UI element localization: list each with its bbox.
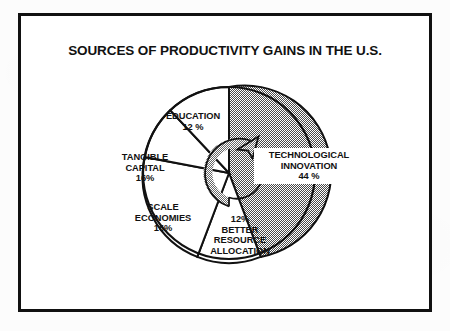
pie-label-better-resource-allocation: 12% BETTER RESOURCE ALLOCATION [197, 214, 283, 256]
figure-frame: SOURCES OF PRODUCTIVITY GAINS IN THE U.S… [18, 13, 432, 312]
pie-chart-svg [21, 16, 435, 315]
pie-label-tangible-capital: TANGIBLE CAPITAL 16% [99, 152, 191, 184]
pie-label-education: EDUCATION 12 % [145, 111, 241, 132]
pie-chart: EDUCATION 12 % TANGIBLE CAPITAL 16% SCAL… [21, 16, 435, 315]
figure-page: SOURCES OF PRODUCTIVITY GAINS IN THE U.S… [0, 0, 450, 331]
pie-label-technological-innovation: TECHNOLOGICAL INNOVATION 44 % [254, 148, 364, 184]
